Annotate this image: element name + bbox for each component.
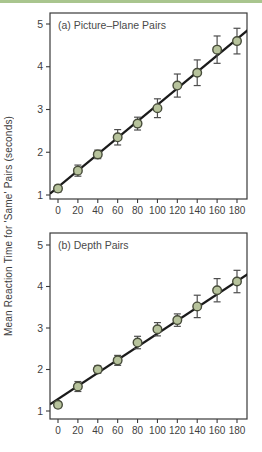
figure: Mean Reaction Time for 'Same' Pairs (sec… <box>0 0 262 452</box>
x-tick-label: 100 <box>149 425 166 436</box>
x-tick-label: 180 <box>229 425 246 436</box>
data-point <box>233 37 242 46</box>
y-tick-label: 5 <box>37 239 43 251</box>
y-tick-label: 5 <box>37 18 43 30</box>
x-tick-label: 180 <box>229 205 246 216</box>
data-point <box>54 400 63 409</box>
x-tick-label: 20 <box>72 425 84 436</box>
panel-title: (b) Depth Pairs <box>58 239 129 251</box>
x-tick-label: 160 <box>209 205 226 216</box>
data-point <box>93 150 102 159</box>
data-point <box>173 316 182 325</box>
y-tick-label: 2 <box>37 363 43 375</box>
x-tick-label: 140 <box>189 205 206 216</box>
data-point <box>193 68 202 77</box>
data-point <box>54 184 63 193</box>
x-tick-label: 100 <box>149 205 166 216</box>
y-tick-label: 4 <box>37 60 43 72</box>
x-tick-label: 80 <box>132 425 144 436</box>
x-tick-label: 60 <box>112 425 124 436</box>
x-tick-label: 80 <box>132 205 144 216</box>
dual-panel-chart: 12345020406080100120140160180(a) Picture… <box>0 0 262 452</box>
data-point <box>113 133 122 142</box>
data-point <box>153 325 162 334</box>
panel-title: (a) Picture–Plane Pairs <box>58 19 166 31</box>
data-point <box>193 302 202 311</box>
data-point <box>113 356 122 365</box>
x-tick-label: 160 <box>209 425 226 436</box>
x-tick-label: 0 <box>55 425 61 436</box>
y-tick-label: 4 <box>37 280 43 292</box>
data-point <box>233 277 242 286</box>
y-tick-label: 1 <box>37 189 43 201</box>
x-tick-label: 140 <box>189 425 206 436</box>
x-tick-label: 40 <box>92 425 104 436</box>
x-tick-label: 60 <box>112 205 124 216</box>
data-point <box>74 382 83 391</box>
data-point <box>153 104 162 113</box>
data-point <box>74 166 83 175</box>
data-point <box>173 81 182 90</box>
x-tick-label: 120 <box>169 205 186 216</box>
y-tick-label: 3 <box>37 103 43 115</box>
y-tick-label: 3 <box>37 322 43 334</box>
x-tick-label: 40 <box>92 205 104 216</box>
y-tick-label: 2 <box>37 146 43 158</box>
data-point <box>133 119 142 128</box>
y-tick-label: 1 <box>37 405 43 417</box>
data-point <box>93 365 102 374</box>
data-point <box>213 286 222 295</box>
x-tick-label: 20 <box>72 205 84 216</box>
x-tick-label: 0 <box>55 205 61 216</box>
chart-panel: 12345020406080100120140160180(a) Picture… <box>37 13 248 216</box>
data-point <box>133 338 142 347</box>
data-point <box>213 45 222 54</box>
chart-panel: 12345020406080100120140160180(b) Depth P… <box>37 233 248 436</box>
x-tick-label: 120 <box>169 425 186 436</box>
